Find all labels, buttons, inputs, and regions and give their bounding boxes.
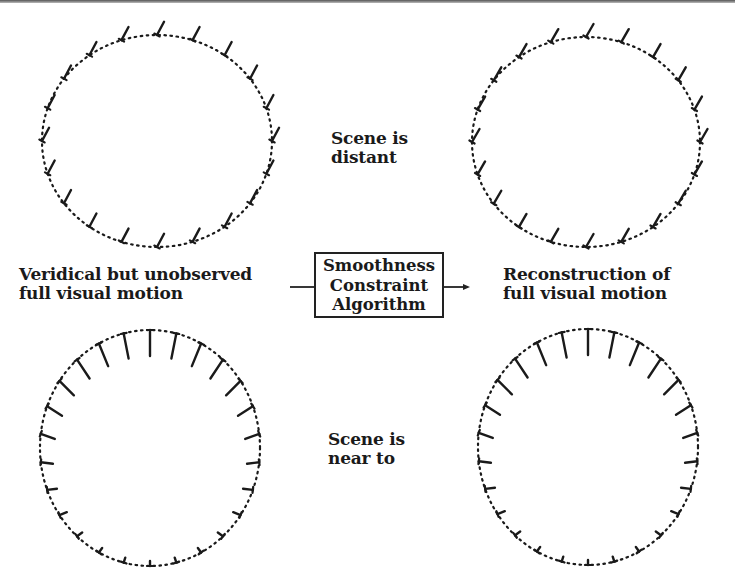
motion-vector <box>171 333 179 359</box>
motion-vector <box>671 511 679 517</box>
motion-vector <box>222 42 232 57</box>
motion-vector <box>173 558 179 564</box>
dotted-contour <box>478 329 698 565</box>
distant-line2: distant <box>331 148 408 167</box>
motion-vector <box>475 97 485 111</box>
motion-vector <box>676 191 686 205</box>
motion-vector <box>61 190 71 205</box>
motion-vector <box>46 404 62 416</box>
motion-vector <box>247 65 257 80</box>
algorithm-line1: Smoothness <box>316 256 442 276</box>
motion-vector <box>218 532 225 538</box>
motion-vector <box>147 330 153 356</box>
motion-vector <box>475 161 485 175</box>
motion-vector <box>534 341 546 365</box>
motion-vector <box>247 190 257 205</box>
motion-vector <box>676 403 692 415</box>
motion-vector <box>585 329 591 355</box>
motion-vector <box>245 431 260 439</box>
motion-vector <box>485 486 495 492</box>
motion-vector <box>611 557 617 563</box>
motion-vector <box>496 511 504 517</box>
motion-vector <box>121 333 129 359</box>
motion-vector <box>269 128 279 143</box>
motion-vector <box>491 191 501 205</box>
motion-vector <box>147 561 153 566</box>
scene-near-label: Scene is near to <box>328 430 405 468</box>
dotted-contour <box>42 35 272 247</box>
motion-vector <box>247 459 260 465</box>
motion-vector <box>469 129 479 143</box>
motion-vector <box>238 404 254 416</box>
motion-vector <box>650 44 660 58</box>
motion-vector <box>484 403 500 415</box>
motion-vector <box>548 229 558 243</box>
motion-vector <box>87 214 97 229</box>
motion-vector <box>636 547 642 553</box>
motion-vector <box>47 487 57 493</box>
motion-vector <box>692 161 702 175</box>
motion-vector <box>491 67 501 81</box>
arrowhead-icon <box>463 284 470 290</box>
motion-vector <box>559 557 565 563</box>
contour-veridical-near <box>40 330 260 566</box>
motion-vector <box>513 531 520 537</box>
motion-vector <box>119 229 129 244</box>
motion-vector <box>664 378 681 394</box>
motion-vector <box>40 431 55 439</box>
input-label-line1: Veridical but unobserved <box>19 265 252 284</box>
motion-vector <box>96 342 108 366</box>
motion-vector <box>226 379 243 395</box>
contour-reconstructed-near <box>478 329 698 565</box>
motion-vector <box>96 548 102 554</box>
motion-vector <box>198 548 204 554</box>
motion-vector <box>58 512 66 518</box>
contour-veridical-distant <box>39 22 279 249</box>
motion-vector <box>40 459 53 465</box>
motion-vector <box>222 214 232 229</box>
motion-vector <box>685 458 698 464</box>
motion-vector <box>650 214 660 228</box>
motion-vector <box>210 358 225 379</box>
input-label: Veridical but unobserved full visual mot… <box>19 265 252 303</box>
motion-vector <box>516 44 526 58</box>
output-label: Reconstruction of full visual motion <box>503 265 670 303</box>
motion-vector <box>585 560 591 565</box>
algorithm-line2: Constraint <box>316 276 442 296</box>
motion-vector <box>656 531 663 537</box>
motion-vector <box>676 67 686 81</box>
motion-vector <box>630 341 642 365</box>
motion-vector <box>243 487 253 493</box>
motion-vector <box>648 357 663 378</box>
motion-vector <box>264 161 274 176</box>
motion-vector <box>534 547 540 553</box>
output-label-line1: Reconstruction of <box>503 265 670 284</box>
distant-line1: Scene is <box>331 129 408 148</box>
motion-vector <box>516 214 526 228</box>
motion-vector <box>190 27 200 42</box>
motion-vector <box>75 532 82 538</box>
dotted-contour <box>472 37 700 247</box>
motion-vector <box>681 486 691 492</box>
motion-vector <box>609 332 617 358</box>
motion-vector <box>39 128 49 143</box>
scene-distant-label: Scene is distant <box>331 129 408 167</box>
motion-vector <box>121 558 127 564</box>
contour-reconstructed-distant <box>469 24 707 248</box>
smoothness-constraint-algorithm-box: Smoothness Constraint Algorithm <box>314 252 444 318</box>
motion-vector <box>495 378 512 394</box>
motion-vector <box>619 29 629 43</box>
output-label-line2: full visual motion <box>503 284 670 303</box>
motion-vector <box>45 95 55 110</box>
motion-vector <box>478 430 493 438</box>
algorithm-line3: Algorithm <box>316 295 442 315</box>
dotted-contour <box>40 330 260 566</box>
motion-vector <box>697 129 707 143</box>
near-line1: Scene is <box>328 430 405 449</box>
motion-vector <box>683 430 698 438</box>
motion-vector <box>513 357 528 378</box>
motion-vector <box>75 358 90 379</box>
motion-vector <box>559 332 567 358</box>
motion-vector <box>478 458 491 464</box>
input-label-line2: full visual motion <box>19 284 252 303</box>
